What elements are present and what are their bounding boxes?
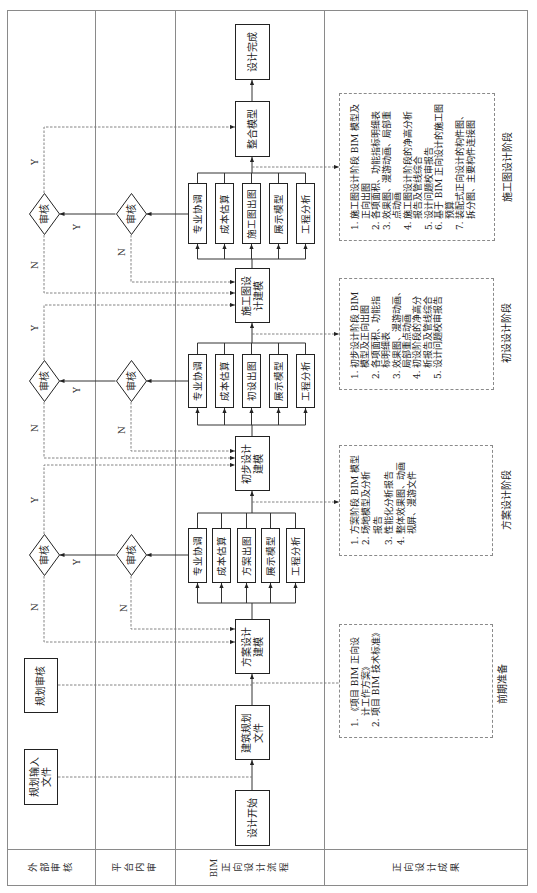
item-text: 效果图、漫游动画、局部重 <box>382 111 393 219</box>
node-label: 成本估算 <box>219 194 230 234</box>
item-text: 点动画 <box>392 111 403 219</box>
item-text: 性能化分析报告 <box>384 471 395 534</box>
item-number: 1. <box>350 219 371 230</box>
item-number: 6. <box>434 219 455 230</box>
planning-input-doc-node: 规划输入 文件 <box>24 749 58 805</box>
item-text: 拆分图、主要构件连接图 <box>466 111 477 219</box>
task-drawing-node: 初设出图 <box>242 354 261 408</box>
item-number: 2. <box>371 219 382 230</box>
deliverable-item: 4. 施工图设计阶段的净高分析报告及管线综合 <box>403 98 424 230</box>
task-coordination-node: 专业协调 <box>188 528 207 583</box>
item-text: 施工图设计阶段的净高分析 <box>403 111 414 219</box>
task-coordination-node: 专业协调 <box>188 183 207 244</box>
swimlane-diagram: 外部审核 平台内审 BIM 正向设计流程 正向设计成果 <box>0 0 537 893</box>
node-label: 建模 <box>253 454 265 474</box>
deliverable-item: 2. 各项面积、功能指标明细表 <box>371 283 392 379</box>
yes-label: Y <box>71 384 83 396</box>
diamond-label: 审核 <box>29 534 60 576</box>
stage-label-schematic: 方案设计阶段 <box>501 445 513 555</box>
item-text: 装配式正向设计的构件图、 <box>455 111 466 219</box>
item-number: 7. <box>455 219 476 230</box>
item-number: 2. <box>371 716 382 727</box>
item-number: 3. <box>382 219 403 230</box>
node-label: 成本估算 <box>216 536 227 576</box>
external-review-diamond: 审核 <box>29 193 60 235</box>
node-label: 展示模型 <box>273 361 284 401</box>
external-review-diamond: 审核 <box>29 360 60 402</box>
design-start-node: 设计开始 <box>235 790 270 846</box>
item-text: 整体效果图、动画 <box>396 462 407 534</box>
item-text: 各项面积、功能指 <box>371 296 381 368</box>
item-number: 3. <box>392 368 413 379</box>
item-text: 局部重点动画 <box>402 287 412 368</box>
planning-review-node: 规划审核 <box>24 658 58 713</box>
item-text: 各项面积、功能指标明细表 <box>371 111 382 219</box>
schematic-modeling-node: 方案设计 建模 <box>235 619 270 674</box>
task-cost-estimate-node: 成本估算 <box>215 354 234 408</box>
item-number: 4. <box>396 534 419 545</box>
diamond-label: 审核 <box>29 360 60 402</box>
task-display-model-node: 展示模型 <box>269 183 288 244</box>
item-text: 设计问题校审报告 <box>433 296 443 368</box>
node-label: 规划审核 <box>35 666 47 706</box>
diamond-label: 审核 <box>116 360 147 402</box>
node-label: 工程分析 <box>300 194 311 234</box>
deliverable-item: 6. 基于 BIM 正向设计的施工图预算 <box>434 98 455 230</box>
item-number: 2. <box>361 534 384 545</box>
deliverable-item: 5. 设计问题校审报告 <box>433 283 443 379</box>
task-drawing-node: 方案出图 <box>237 528 256 583</box>
item-number: 2. <box>371 368 392 379</box>
task-display-model-node: 展示模型 <box>269 354 288 408</box>
stage-label-preparation: 前期准备 <box>497 629 509 739</box>
deliverable-box-preparation: 1. 《项目 BIM 正向设计工作方案》 2. 项目 BIM 技术标准》 <box>339 624 493 738</box>
no-label: N <box>29 259 41 271</box>
item-text: 标明细表 <box>381 296 391 368</box>
item-text: 计工作方案》 <box>361 637 372 716</box>
node-label: 施工图设 <box>241 276 253 316</box>
deliverable-box-preliminary: 1. 初步设计阶段 BIM模型及正向出图 2. 各项面积、功能指标明细表 3. … <box>339 278 494 390</box>
task-cost-estimate-node: 成本估算 <box>212 528 231 583</box>
item-text: 效果图、漫游动画、 <box>392 287 402 368</box>
deliverable-item: 1. 方案阶段 BIM 模型 <box>350 450 361 545</box>
design-complete-node: 设计完成 <box>235 24 270 80</box>
item-text: 正向出图 <box>361 104 372 219</box>
item-text: 《项目 BIM 正向设 <box>350 637 361 716</box>
deliverable-item: 2. 场地模型及分析报告 <box>361 450 384 545</box>
item-text: 场地模型及分析 <box>361 471 372 534</box>
task-coordination-node: 专业协调 <box>188 354 207 408</box>
item-text: 施工图设计阶段 BIM 模型及 <box>350 104 361 219</box>
yes-label: Y <box>71 556 83 568</box>
item-number: 1. <box>350 368 371 379</box>
deliverable-item: 1. 《项目 BIM 正向设计工作方案》 <box>350 629 371 727</box>
item-number: 1. <box>350 716 371 727</box>
diamond-label: 审核 <box>116 534 147 576</box>
deliverable-item: 1. 初步设计阶段 BIM模型及正向出图 <box>350 283 371 379</box>
node-label: 文件 <box>41 767 53 787</box>
planning-doc-node: 建筑规划 文件 <box>235 705 270 760</box>
node-label: 成本估算 <box>219 361 230 401</box>
no-label: N <box>29 422 41 434</box>
deliverable-item: 4. 初设阶段的净高分析报告及管线综合 <box>412 283 433 379</box>
node-label: 展示模型 <box>273 194 284 234</box>
preliminary-modeling-node: 初步设计 建模 <box>235 436 270 491</box>
task-display-model-node: 展示模型 <box>261 528 280 583</box>
node-label: 工程分析 <box>300 361 311 401</box>
item-number: 1. <box>350 534 361 545</box>
deliverable-item: 3. 效果图、漫游动画、局部重点动画 <box>392 283 413 379</box>
node-label: 展示模型 <box>265 536 276 576</box>
deliverable-item: 5. 设计问题校审报告 <box>424 98 435 230</box>
deliverable-item: 4. 整体效果图、动画视屏、漫游文件 <box>396 450 419 545</box>
node-label: 建筑规划 <box>241 713 253 753</box>
diamond-label: 审核 <box>116 193 147 235</box>
yes-label: Y <box>71 221 83 233</box>
yes-label: Y <box>29 156 41 168</box>
node-label: 设计开始 <box>247 798 259 838</box>
deliverable-item: 1. 施工图设计阶段 BIM 模型及正向出图 <box>350 98 371 230</box>
item-text: 设计问题校审报告 <box>424 147 435 219</box>
node-label: 方案设计 <box>241 627 253 667</box>
item-number: 3. <box>384 534 395 545</box>
node-label: 方案出图 <box>241 536 252 576</box>
integrate-model-node: 整合模型 <box>235 101 270 157</box>
no-label: N <box>29 601 41 613</box>
item-text: 基于 BIM 正向设计的施工图 <box>434 104 445 219</box>
